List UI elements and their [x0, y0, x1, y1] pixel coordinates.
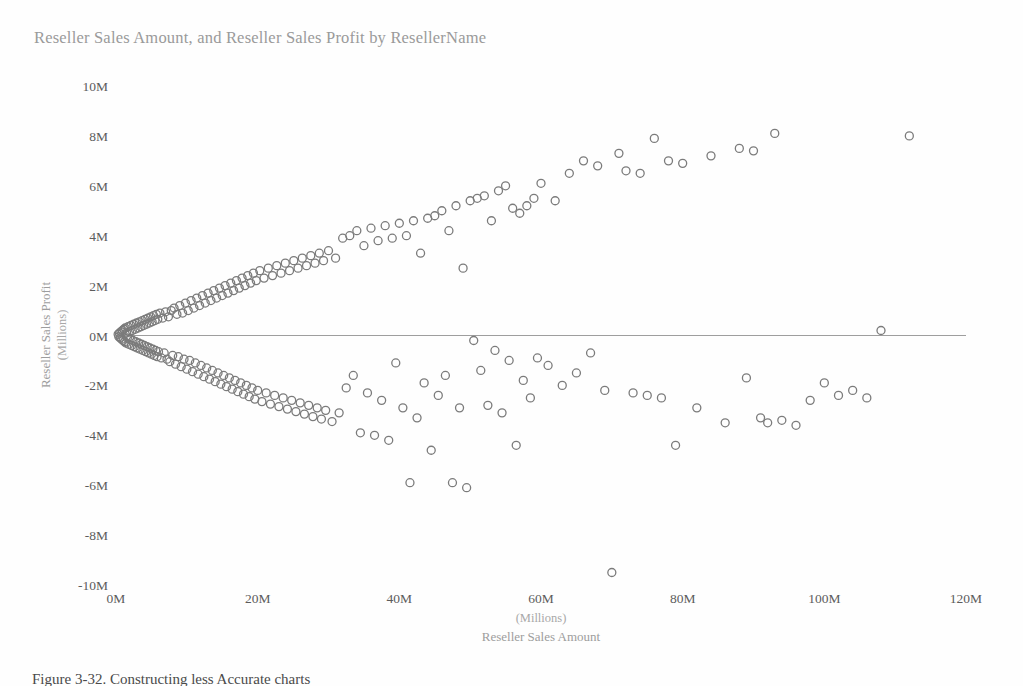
data-point[interactable] — [283, 405, 291, 413]
data-point[interactable] — [498, 409, 506, 417]
data-point[interactable] — [266, 400, 274, 408]
data-point[interactable] — [356, 429, 364, 437]
data-point[interactable] — [349, 371, 357, 379]
data-point[interactable] — [587, 349, 595, 357]
data-point[interactable] — [277, 269, 285, 277]
data-point[interactable] — [406, 479, 414, 487]
data-point[interactable] — [519, 376, 527, 384]
data-point[interactable] — [742, 374, 750, 382]
data-point[interactable] — [399, 404, 407, 412]
data-point[interactable] — [533, 354, 541, 362]
data-point[interactable] — [281, 259, 289, 267]
data-point[interactable] — [367, 224, 375, 232]
data-point[interactable] — [335, 409, 343, 417]
data-point[interactable] — [273, 262, 281, 270]
data-point[interactable] — [427, 446, 435, 454]
data-point[interactable] — [275, 403, 283, 411]
data-points-layer[interactable] — [114, 129, 913, 576]
data-point[interactable] — [580, 157, 588, 165]
data-point[interactable] — [905, 132, 913, 140]
scatter-plot[interactable]: 10M8M6M4M2M0M-2M-4M-6M-8M-10M 0M20M40M60… — [0, 0, 1023, 686]
data-point[interactable] — [657, 394, 665, 402]
data-point[interactable] — [279, 394, 287, 402]
data-point[interactable] — [309, 413, 317, 421]
data-point[interactable] — [395, 219, 403, 227]
data-point[interactable] — [286, 267, 294, 275]
data-point[interactable] — [530, 194, 538, 202]
data-point[interactable] — [792, 421, 800, 429]
data-point[interactable] — [764, 419, 772, 427]
data-point[interactable] — [459, 264, 467, 272]
data-point[interactable] — [315, 249, 323, 257]
data-point[interactable] — [402, 232, 410, 240]
data-point[interactable] — [311, 259, 319, 267]
data-point[interactable] — [288, 396, 296, 404]
data-point[interactable] — [392, 359, 400, 367]
data-point[interactable] — [484, 401, 492, 409]
data-point[interactable] — [480, 192, 488, 200]
data-point[interactable] — [601, 386, 609, 394]
data-point[interactable] — [491, 346, 499, 354]
data-point[interactable] — [679, 159, 687, 167]
data-point[interactable] — [572, 369, 580, 377]
data-point[interactable] — [378, 396, 386, 404]
data-point[interactable] — [262, 389, 270, 397]
data-point[interactable] — [757, 414, 765, 422]
data-point[interactable] — [558, 381, 566, 389]
data-point[interactable] — [300, 410, 308, 418]
data-point[interactable] — [629, 389, 637, 397]
data-point[interactable] — [707, 152, 715, 160]
data-point[interactable] — [264, 264, 272, 272]
data-point[interactable] — [650, 134, 658, 142]
data-point[interactable] — [544, 361, 552, 369]
data-point[interactable] — [551, 197, 559, 205]
data-point[interactable] — [296, 399, 304, 407]
data-point[interactable] — [342, 384, 350, 392]
data-point[interactable] — [448, 479, 456, 487]
data-point[interactable] — [835, 391, 843, 399]
data-point[interactable] — [665, 157, 673, 165]
data-point[interactable] — [313, 404, 321, 412]
data-point[interactable] — [260, 274, 268, 282]
data-point[interactable] — [258, 398, 266, 406]
data-point[interactable] — [325, 247, 333, 255]
data-point[interactable] — [353, 227, 361, 235]
data-point[interactable] — [434, 391, 442, 399]
data-point[interactable] — [643, 391, 651, 399]
data-point[interactable] — [693, 404, 701, 412]
data-point[interactable] — [470, 336, 478, 344]
data-point[interactable] — [820, 379, 828, 387]
data-point[interactable] — [294, 264, 302, 272]
data-point[interactable] — [445, 227, 453, 235]
data-point[interactable] — [420, 379, 428, 387]
data-point[interactable] — [290, 257, 298, 265]
data-point[interactable] — [495, 187, 503, 195]
data-point[interactable] — [672, 441, 680, 449]
data-point[interactable] — [360, 242, 368, 250]
data-point[interactable] — [417, 249, 425, 257]
data-point[interactable] — [271, 391, 279, 399]
data-point[interactable] — [298, 254, 306, 262]
data-point[interactable] — [477, 366, 485, 374]
data-point[interactable] — [512, 441, 520, 449]
data-point[interactable] — [371, 431, 379, 439]
data-point[interactable] — [750, 147, 758, 155]
data-point[interactable] — [413, 414, 421, 422]
data-point[interactable] — [317, 415, 325, 423]
data-point[interactable] — [849, 386, 857, 394]
data-point[interactable] — [523, 202, 531, 210]
data-point[interactable] — [608, 569, 616, 577]
data-point[interactable] — [346, 232, 354, 240]
data-point[interactable] — [322, 406, 330, 414]
data-point[interactable] — [292, 408, 300, 416]
data-point[interactable] — [526, 394, 534, 402]
data-point[interactable] — [509, 204, 517, 212]
data-point[interactable] — [537, 179, 545, 187]
data-point[interactable] — [806, 396, 814, 404]
data-point[interactable] — [622, 167, 630, 175]
data-point[interactable] — [307, 252, 315, 260]
data-point[interactable] — [615, 149, 623, 157]
data-point[interactable] — [771, 129, 779, 137]
data-point[interactable] — [863, 394, 871, 402]
data-point[interactable] — [721, 419, 729, 427]
